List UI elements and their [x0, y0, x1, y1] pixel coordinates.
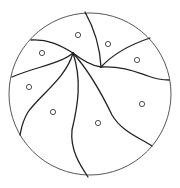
region-edges	[12, 12, 169, 177]
seed-point-icon	[75, 32, 80, 37]
seed-point-icon	[95, 120, 100, 125]
region-edge-hub-to-junction	[73, 53, 101, 67]
voronoi-circle-diagram	[0, 0, 180, 188]
region-edge-upper-left	[31, 40, 73, 53]
seed-point-icon	[105, 41, 110, 46]
region-edge-right	[101, 67, 169, 80]
seed-point-icon	[134, 57, 139, 62]
seed-point-icon	[139, 101, 144, 106]
boundary-circle	[9, 13, 171, 175]
region-edge-left	[12, 53, 73, 77]
seed-point-icon	[39, 50, 44, 55]
seed-point-icon	[50, 109, 55, 114]
region-edge-bottom	[72, 53, 88, 177]
seed-points	[26, 32, 144, 125]
seed-point-icon	[26, 84, 31, 89]
region-edge-top	[85, 12, 101, 67]
